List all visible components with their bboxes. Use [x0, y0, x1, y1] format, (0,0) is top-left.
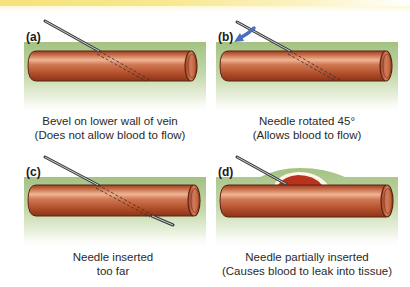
caption-line: Needle partially inserted: [207, 250, 407, 264]
panel-b: [216, 22, 398, 114]
panel-b-caption: Needle rotated 45° (Allows blood to flow…: [207, 114, 407, 142]
caption-line: (Does not allow blood to flow): [10, 128, 210, 142]
panel-c-caption: Needle inserted too far: [13, 250, 213, 278]
panel-d-label: (d): [218, 165, 233, 179]
caption-line: Bevel on lower wall of vein: [10, 114, 210, 128]
caption-line: too far: [13, 264, 213, 278]
vein: [220, 185, 393, 217]
panel-c: [24, 157, 206, 249]
caption-line: (Causes blood to leak into tissue): [207, 264, 407, 278]
panel-a: [24, 21, 206, 114]
caption-line: Needle inserted: [13, 250, 213, 264]
panel-a-label: (a): [26, 30, 41, 44]
panel-d-caption: Needle partially inserted (Causes blood …: [207, 250, 407, 278]
caption-line: Needle rotated 45°: [207, 114, 407, 128]
panel-d: [216, 157, 398, 249]
panel-b-label: (b): [218, 30, 233, 44]
vein: [220, 51, 392, 81]
venipuncture-figure: [0, 0, 410, 287]
arrow-down-left-icon: [234, 28, 254, 42]
caption-line: (Allows blood to flow): [207, 128, 407, 142]
vein: [28, 185, 200, 216]
panel-c-label: (c): [26, 165, 41, 179]
vein: [28, 51, 197, 81]
panel-a-caption: Bevel on lower wall of vein (Does not al…: [10, 114, 210, 142]
